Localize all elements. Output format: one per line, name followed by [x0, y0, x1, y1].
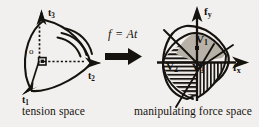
axis-label-fy: fy: [204, 6, 212, 19]
mapping-equation: f = At: [108, 28, 138, 40]
force-space-group: [157, 6, 249, 107]
region-label-v2-sub: 2: [174, 65, 178, 74]
caption-tension-space: tension space: [22, 106, 85, 118]
region-label-v3-sub: 3: [200, 66, 204, 75]
region-label-v3: V3: [192, 62, 204, 75]
caption-force-space: manipulating force space: [134, 106, 252, 118]
origin-label: o: [29, 47, 34, 56]
axis-label-fy-sub: y: [208, 10, 212, 19]
axis-label-t3: t3: [48, 8, 55, 20]
region-label-v1-base: V: [196, 33, 204, 45]
region-label-v1-sub: 1: [204, 38, 208, 47]
axis-label-t2: t2: [88, 71, 95, 83]
region-label-v1: V1: [196, 34, 208, 47]
axis-label-t1: t1: [22, 95, 29, 107]
axis-label-t1-sub: 1: [25, 99, 29, 107]
axis-label-fx-sub: x: [237, 66, 241, 75]
region-label-v2: V2: [166, 61, 178, 74]
axis-label-t3-sub: 3: [51, 12, 55, 20]
region-label-v2-base: V: [166, 60, 174, 72]
region-label-v3-base: V: [192, 61, 200, 73]
axis-label-t2-sub: 2: [91, 75, 95, 83]
axis-label-fx: fx: [233, 62, 241, 75]
mapping-arrow: [105, 48, 142, 65]
tension-axis-lines: [31, 61, 40, 88]
